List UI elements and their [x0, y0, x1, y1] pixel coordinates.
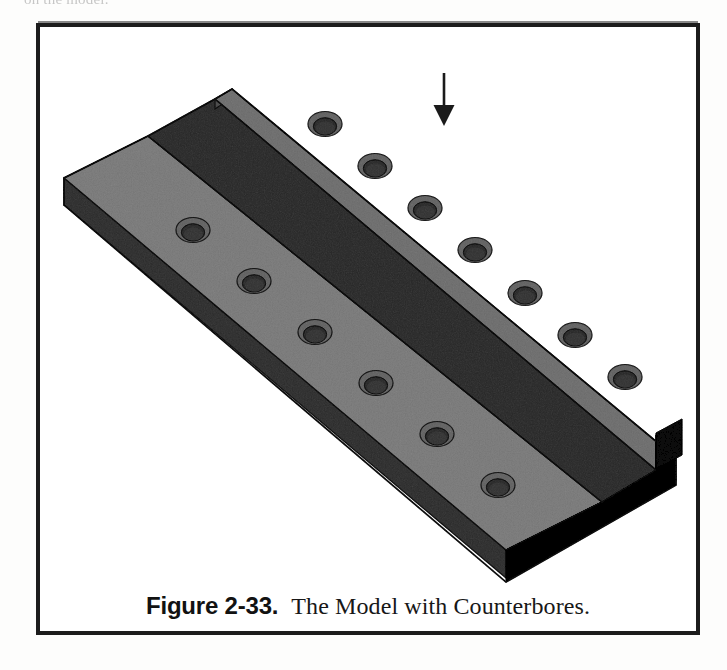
solid-model-body	[64, 89, 682, 582]
counterbore-lower-5	[420, 421, 454, 447]
counterbore-upper-2	[358, 153, 392, 179]
counterbore-upper-6	[558, 322, 592, 348]
counterbore-upper-3	[408, 195, 442, 221]
counterbore-upper-4	[458, 237, 492, 263]
counterbore-lower-2	[237, 268, 271, 294]
counterbore-upper-5	[508, 280, 542, 306]
counterbore-lower-6	[481, 472, 515, 498]
counterbore-upper-7	[608, 364, 642, 390]
page-top-partial-text: on the model.	[24, 0, 244, 7]
counterbore-lower-4	[359, 370, 393, 396]
counterbore-upper-1	[308, 111, 342, 137]
scanned-page: on the model.	[0, 0, 727, 670]
counterbore-lower-1	[176, 217, 210, 243]
down-arrow-icon	[434, 73, 455, 126]
figure-caption-label: Figure 2-33.	[146, 592, 278, 619]
figure-caption-text: The Model with Counterbores.	[291, 593, 590, 619]
figure-caption: Figure 2-33.The Model with Counterbores.	[36, 592, 700, 620]
model-drawing-canvas	[36, 23, 700, 635]
counterbore-lower-3	[298, 319, 332, 345]
